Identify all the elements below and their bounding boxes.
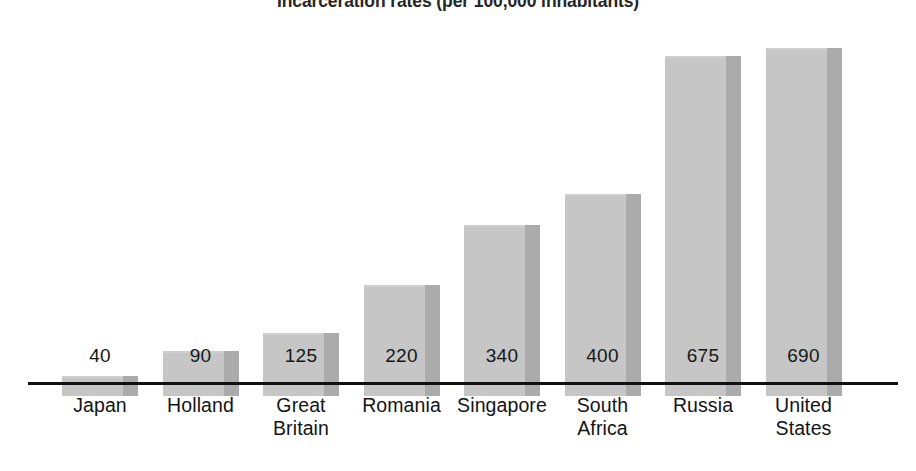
bar-group: 125 — [263, 13, 339, 396]
bar-side-face — [425, 285, 440, 396]
bar-value-label: 220 — [364, 345, 440, 367]
bar-value-label: 40 — [62, 345, 138, 367]
bar-group: 40 — [62, 13, 138, 396]
bar-value-label: 90 — [163, 345, 239, 367]
category-label-south-africa: SouthAfrica — [549, 394, 657, 440]
bar-group: 340 — [464, 13, 540, 396]
category-label-line: Russia — [649, 394, 757, 417]
bar — [464, 225, 540, 396]
bar-group: 690 — [766, 13, 842, 396]
category-label-line: United — [750, 394, 858, 417]
category-label-line: Great — [247, 394, 355, 417]
category-label-line: Romania — [348, 394, 456, 417]
plot-area: 4090125220340400675690 — [0, 0, 916, 396]
x-axis-baseline — [28, 382, 898, 385]
bar-side-face — [525, 225, 540, 396]
category-label-line: Singapore — [448, 394, 556, 417]
category-label-japan: Japan — [46, 394, 154, 417]
bar-side-face — [827, 48, 842, 396]
bar-value-label: 400 — [565, 345, 641, 367]
bar-value-label: 125 — [263, 345, 339, 367]
bar-group: 400 — [565, 13, 641, 396]
bar-value-label: 690 — [766, 345, 842, 367]
bar — [364, 285, 440, 396]
category-label-great-britain: GreatBritain — [247, 394, 355, 440]
category-label-line: Japan — [46, 394, 154, 417]
category-label-united-states: UnitedStates — [750, 394, 858, 440]
incarceration-rates-bar-chart: Incarceration rates (per 100,000 inhabit… — [0, 0, 916, 471]
category-label-holland: Holland — [147, 394, 255, 417]
category-label-line: Africa — [549, 417, 657, 440]
category-axis-labels: JapanHollandGreatBritainRomaniaSingapore… — [0, 388, 916, 458]
bar — [766, 48, 842, 396]
category-label-line: Holland — [147, 394, 255, 417]
category-label-line: Britain — [247, 417, 355, 440]
bar-group: 675 — [665, 13, 741, 396]
bar-group: 220 — [364, 13, 440, 396]
category-label-romania: Romania — [348, 394, 456, 417]
category-label-line: South — [549, 394, 657, 417]
bar-group: 90 — [163, 13, 239, 396]
bar-value-label: 675 — [665, 345, 741, 367]
category-label-russia: Russia — [649, 394, 757, 417]
category-label-singapore: Singapore — [448, 394, 556, 417]
category-label-line: States — [750, 417, 858, 440]
bar-value-label: 340 — [464, 345, 540, 367]
